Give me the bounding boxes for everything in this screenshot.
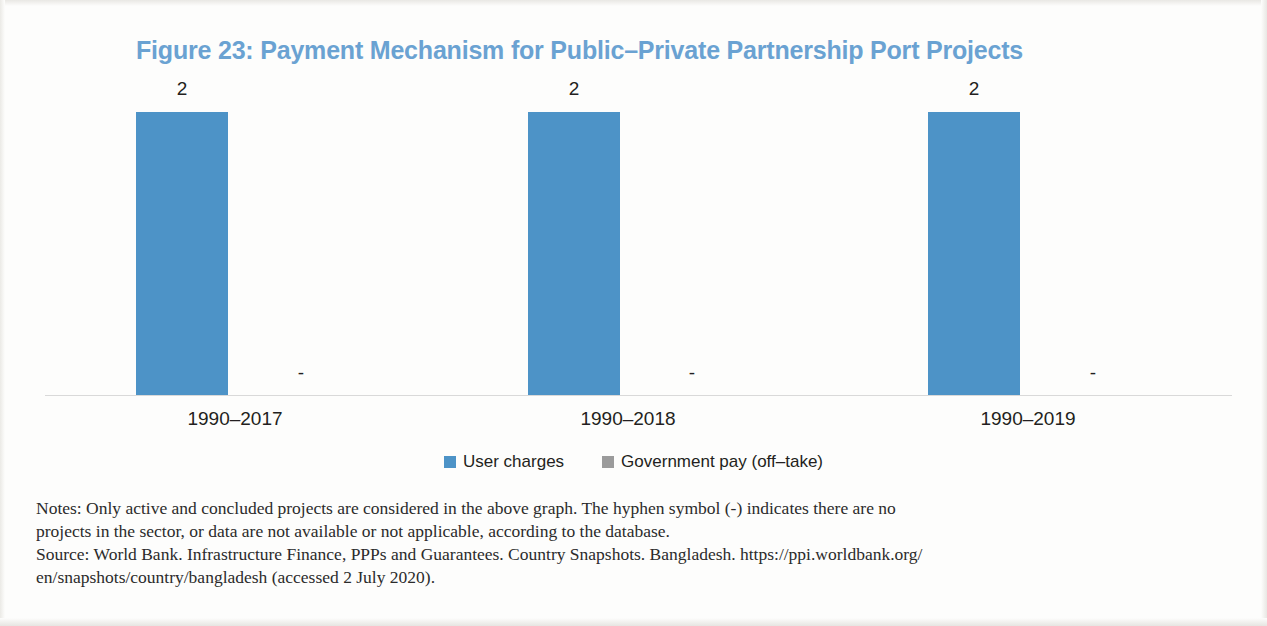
bar-user-charges-1990-2019[interactable]: [928, 112, 1020, 395]
x-axis-category-label: 1990–2019: [908, 408, 1148, 430]
x-axis-line: [45, 395, 1232, 396]
legend-item-government-pay[interactable]: Government pay (off–take): [602, 452, 823, 472]
x-axis-category-label: 1990–2018: [508, 408, 748, 430]
bar-value-label: 2: [136, 78, 228, 100]
no-data-dash-marker: -: [672, 362, 712, 384]
no-data-dash-marker: -: [1073, 362, 1113, 384]
page-edge-bottom: [0, 618, 1267, 626]
x-axis-category-label: 1990–2017: [115, 408, 355, 430]
figure-page: Figure 23: Payment Mechanism for Public–…: [0, 0, 1267, 626]
page-edge-top: [0, 0, 1267, 6]
figure-title: Figure 23: Payment Mechanism for Public–…: [136, 36, 1166, 65]
no-data-dash-marker: -: [281, 362, 321, 384]
legend-label: Government pay (off–take): [621, 452, 823, 472]
source-line-1: Source: World Bank. Infrastructure Finan…: [36, 543, 1232, 566]
figure-notes: Notes: Only active and concluded project…: [36, 497, 1232, 589]
chart-legend: User charges Government pay (off–take): [0, 452, 1267, 472]
notes-line-2: projects in the sector, or data are not …: [36, 520, 1232, 543]
bar-user-charges-1990-2017[interactable]: [136, 112, 228, 395]
legend-label: User charges: [463, 452, 564, 472]
legend-item-user-charges[interactable]: User charges: [444, 452, 564, 472]
legend-swatch-icon: [444, 456, 456, 468]
bar-user-charges-1990-2018[interactable]: [528, 112, 620, 395]
legend-swatch-icon: [602, 456, 614, 468]
bar-chart: 2 2 2 - - -: [0, 70, 1267, 400]
notes-line-1: Notes: Only active and concluded project…: [36, 497, 1232, 520]
bar-value-label: 2: [528, 78, 620, 100]
bar-value-label: 2: [928, 78, 1020, 100]
source-line-2: en/snapshots/country/bangladesh (accesse…: [36, 566, 1232, 589]
